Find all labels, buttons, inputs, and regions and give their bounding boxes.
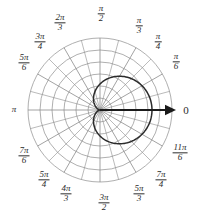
angle-11pi-6-fraction: 11π6 xyxy=(173,143,188,162)
angle-7pi-4-denominator: 4 xyxy=(155,181,166,190)
angle-pi-2-fraction: π2 xyxy=(98,4,105,23)
angle-pi-2-denominator: 2 xyxy=(98,15,105,24)
angle-3pi-4-fraction: 3π4 xyxy=(34,32,45,51)
angle-4pi-3-denominator: 3 xyxy=(60,195,71,204)
angle-11pi-6-denominator: 6 xyxy=(173,154,188,163)
angle-3pi-4: 3π4 xyxy=(34,32,45,51)
angle-pi-3-fraction: π3 xyxy=(136,16,143,35)
angle-7pi-4: 7π4 xyxy=(155,170,166,189)
angle-pi-4-denominator: 4 xyxy=(155,43,162,52)
angle-4pi-3: 4π3 xyxy=(60,184,71,203)
grid-spoke-120deg xyxy=(64,48,100,110)
grid-spoke-225deg xyxy=(49,110,100,161)
angle-3pi-2-fraction: 3π2 xyxy=(98,193,109,212)
angle-5pi-4-fraction: 5π4 xyxy=(38,170,49,189)
angle-0: 0 xyxy=(183,105,189,116)
angle-0-text: 0 xyxy=(183,105,189,116)
angle-pi-text: π xyxy=(12,106,17,115)
angle-3pi-4-denominator: 4 xyxy=(34,43,45,52)
angle-3pi-2-denominator: 2 xyxy=(98,204,109,213)
angle-2pi-3: 2π3 xyxy=(54,13,65,32)
polar-grid-svg xyxy=(0,0,206,221)
angle-pi-4-fraction: π4 xyxy=(155,32,162,51)
angle-3pi-2: 3π2 xyxy=(98,193,109,212)
angle-5pi-4: 5π4 xyxy=(38,170,49,189)
polar-axis-arrow-icon xyxy=(165,105,176,115)
angle-pi: π xyxy=(12,105,17,114)
angle-pi-4: π4 xyxy=(155,32,162,51)
angle-pi-6: π6 xyxy=(173,52,180,71)
angle-5pi-3-fraction: 5π3 xyxy=(133,184,144,203)
angle-4pi-3-fraction: 4π3 xyxy=(60,184,71,203)
angle-11pi-6: 11π6 xyxy=(173,143,188,162)
angle-5pi-6-denominator: 6 xyxy=(18,64,29,73)
grid-spoke-315deg xyxy=(100,110,151,161)
angle-5pi-6-fraction: 5π6 xyxy=(18,53,29,72)
angle-2pi-3-denominator: 3 xyxy=(54,24,65,33)
angle-5pi-3: 5π3 xyxy=(133,184,144,203)
grid-spoke-135deg xyxy=(49,59,100,110)
grid-spoke-150deg xyxy=(38,74,100,110)
angle-2pi-3-fraction: 2π3 xyxy=(54,13,65,32)
angle-pi-2: π2 xyxy=(98,4,105,23)
grid-spoke-45deg xyxy=(100,59,151,110)
grid-spoke-330deg xyxy=(100,110,162,146)
angle-7pi-4-fraction: 7π4 xyxy=(155,170,166,189)
angle-5pi-3-denominator: 3 xyxy=(133,195,144,204)
angle-7pi-6-fraction: 7π6 xyxy=(18,146,29,165)
angle-pi-6-denominator: 6 xyxy=(173,63,180,72)
angle-7pi-6-denominator: 6 xyxy=(18,157,29,166)
angle-pi-3-denominator: 3 xyxy=(136,27,143,36)
angle-pi-6-fraction: π6 xyxy=(173,52,180,71)
angle-5pi-6: 5π6 xyxy=(18,53,29,72)
grid-spoke-240deg xyxy=(64,110,100,172)
grid-spoke-30deg xyxy=(100,74,162,110)
polar-plot-figure: 0π6π4π3π22π33π45π6π7π65π44π33π25π37π411π… xyxy=(0,0,206,221)
angle-7pi-6: 7π6 xyxy=(18,146,29,165)
angle-pi-3: π3 xyxy=(136,16,143,35)
grid-spoke-210deg xyxy=(38,110,100,146)
angle-5pi-4-denominator: 4 xyxy=(38,181,49,190)
